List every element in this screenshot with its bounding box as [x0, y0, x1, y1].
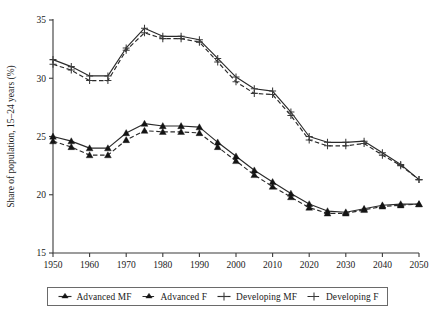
- x-axis-tick-label: 1990: [190, 260, 209, 270]
- x-axis-tick-label: 2050: [410, 260, 429, 270]
- chart-plot-area: 1520253035195019601970198019902000201020…: [0, 0, 435, 320]
- legend-item-label: Developing MF: [236, 292, 297, 302]
- data-point-marker: [123, 137, 130, 143]
- legend-item-label: Advanced MF: [77, 292, 132, 302]
- data-point-marker: [324, 142, 331, 149]
- data-point-marker: [196, 130, 203, 136]
- x-axis-tick-label: 2030: [336, 260, 355, 270]
- data-point-marker: [141, 127, 148, 133]
- legend-item-label: Developing F: [326, 292, 379, 302]
- chart-figure: 1520253035195019601970198019902000201020…: [0, 0, 435, 320]
- data-point-marker: [104, 77, 111, 84]
- data-point-marker: [141, 120, 148, 126]
- x-axis-tick-label: 1970: [117, 260, 136, 270]
- y-axis-tick-label: 35: [37, 15, 47, 25]
- legend-item-advanced-f[interactable]: Advanced F: [141, 291, 208, 302]
- triangle-marker-icon: [141, 291, 157, 302]
- y-axis-tick-label: 30: [37, 74, 47, 84]
- series-advanced-mf: [50, 120, 423, 215]
- legend-item-label: Advanced F: [161, 292, 208, 302]
- x-axis-tick-label: 1960: [80, 260, 99, 270]
- data-point-marker: [50, 61, 57, 68]
- plus-marker-icon: [306, 291, 322, 302]
- series-line: [53, 124, 419, 213]
- legend-item-advanced-mf[interactable]: Advanced MF: [57, 291, 132, 302]
- y-axis-tick-label: 15: [37, 248, 47, 258]
- data-point-marker: [342, 142, 349, 149]
- chart-legend: Advanced MFAdvanced FDeveloping MFDevelo…: [47, 287, 388, 306]
- chart-axes: [53, 19, 419, 253]
- data-point-marker: [86, 77, 93, 84]
- x-axis-tick-label: 2010: [263, 260, 282, 270]
- triangle-marker-icon: [57, 291, 73, 302]
- data-point-marker: [251, 90, 258, 97]
- x-axis-tick-label: 2020: [300, 260, 319, 270]
- x-axis-tick-label: 1950: [44, 260, 63, 270]
- data-point-marker: [123, 130, 130, 136]
- y-axis-tick-label: 20: [37, 190, 47, 200]
- series-advanced-f: [50, 127, 423, 216]
- data-point-marker: [86, 152, 93, 158]
- x-axis-tick-label: 1980: [153, 260, 172, 270]
- legend-item-developing-mf[interactable]: Developing MF: [216, 291, 297, 302]
- x-axis-tick-label: 2000: [227, 260, 246, 270]
- legend-item-developing-f[interactable]: Developing F: [306, 291, 379, 302]
- plus-marker-icon: [216, 291, 232, 302]
- x-axis-tick-label: 2040: [373, 260, 392, 270]
- y-axis-tick-label: 25: [37, 132, 47, 142]
- y-axis-title: Share of population, 15–24 years (%): [6, 65, 17, 207]
